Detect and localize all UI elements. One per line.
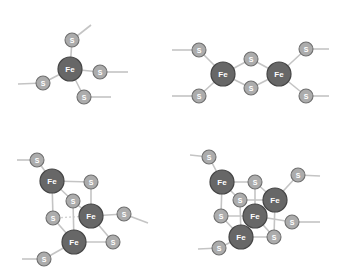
atom-label: S — [238, 197, 243, 204]
atom-label: S — [290, 219, 295, 226]
atom-label: S — [197, 47, 202, 54]
sulfur-atom: S — [244, 81, 258, 95]
iron-atom: Fe — [263, 188, 287, 212]
sulfur-atom: S — [66, 194, 80, 208]
iron-atom: Fe — [229, 225, 253, 249]
iron-atom: Fe — [210, 170, 234, 194]
atom-label: Fe — [217, 178, 227, 187]
atom-label: Fe — [65, 65, 75, 74]
iron-atom: Fe — [211, 62, 235, 86]
sulfur-atom: S — [117, 207, 131, 221]
atom-label: S — [253, 179, 258, 186]
atom-label: Fe — [47, 177, 57, 186]
atom-label: S — [249, 56, 254, 63]
sulfur-atom: S — [244, 52, 258, 66]
diagram-svg: SSSSFe SSSSSSFeFe SSSSSSSFeFeFe SSSSSSSS… — [0, 0, 345, 280]
atom-label: Fe — [86, 212, 96, 221]
sulfur-atom: S — [192, 43, 206, 57]
sulfur-atom: S — [192, 89, 206, 103]
atom-label: S — [249, 85, 254, 92]
sulfur-atom: S — [37, 252, 51, 266]
sulfur-atom: S — [202, 150, 216, 164]
sulfur-atom: S — [93, 65, 107, 79]
atom-label: S — [42, 256, 47, 263]
sulfur-atom: S — [233, 193, 247, 207]
sulfur-atom: S — [36, 76, 50, 90]
atom-label: S — [304, 46, 309, 53]
atom-label: Fe — [270, 196, 280, 205]
atom-label: S — [98, 69, 103, 76]
atom-label: Fe — [250, 212, 260, 221]
atom-label: S — [217, 245, 222, 252]
sulfur-atom: S — [46, 211, 60, 225]
sulfur-atom: S — [299, 42, 313, 56]
iron-atom: Fe — [267, 62, 291, 86]
atom-label: S — [89, 179, 94, 186]
atom-label: S — [70, 37, 75, 44]
atom-label: Fe — [218, 70, 228, 79]
sulfur-atom: S — [30, 153, 44, 167]
atom-label: S — [197, 93, 202, 100]
sulfur-atom: S — [299, 89, 313, 103]
iron-atom: Fe — [62, 230, 86, 254]
atom-label: S — [219, 213, 224, 220]
cluster-single-fe: SSSSFe — [18, 25, 128, 104]
iron-atom: Fe — [58, 57, 82, 81]
iron-atom: Fe — [79, 204, 103, 228]
atom-label: S — [304, 93, 309, 100]
sulfur-atom: S — [84, 175, 98, 189]
atom-label: S — [272, 234, 277, 241]
atom-label: S — [51, 215, 56, 222]
atom-label: S — [122, 211, 127, 218]
sulfur-atom: S — [248, 175, 262, 189]
atom-label: S — [71, 198, 76, 205]
sulfur-atom: S — [291, 168, 305, 182]
sulfur-atom: S — [65, 33, 79, 47]
iron-atom: Fe — [243, 204, 267, 228]
atom-label: S — [41, 80, 46, 87]
sulfur-atom: S — [106, 235, 120, 249]
sulfur-atom: S — [214, 209, 228, 223]
sulfur-atom: S — [77, 90, 91, 104]
iron-sulfur-cluster-diagram: SSSSFe SSSSSSFeFe SSSSSSSFeFeFe SSSSSSSS… — [0, 0, 345, 280]
sulfur-atom: S — [267, 230, 281, 244]
atom-label: S — [207, 154, 212, 161]
iron-atom: Fe — [40, 169, 64, 193]
cluster-2fe-2s: SSSSSSFeFe — [172, 42, 329, 103]
atom-label: Fe — [274, 70, 284, 79]
atom-label: Fe — [236, 233, 246, 242]
atom-label: Fe — [69, 238, 79, 247]
atom-label: S — [296, 172, 301, 179]
cluster-4fe-4s: SSSSSSSSFeFeFeFe — [190, 150, 320, 255]
atom-label: S — [35, 157, 40, 164]
sulfur-atom: S — [212, 241, 226, 255]
sulfur-atom: S — [285, 215, 299, 229]
atom-label: S — [111, 239, 116, 246]
cluster-3fe-4s: SSSSSSSFeFeFe — [17, 153, 148, 266]
atom-label: S — [82, 94, 87, 101]
